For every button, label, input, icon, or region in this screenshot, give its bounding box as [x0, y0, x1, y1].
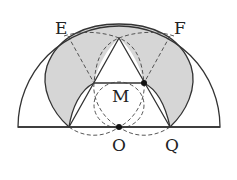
label-M: M — [112, 86, 129, 106]
label-O: O — [112, 135, 126, 155]
label-F: F — [174, 18, 186, 38]
label-E: E — [55, 18, 67, 38]
label-Q: Q — [165, 135, 179, 155]
point-O — [116, 124, 122, 130]
point-M-dot — [141, 80, 147, 86]
geometry-diagram: E F M O Q — [0, 0, 237, 180]
